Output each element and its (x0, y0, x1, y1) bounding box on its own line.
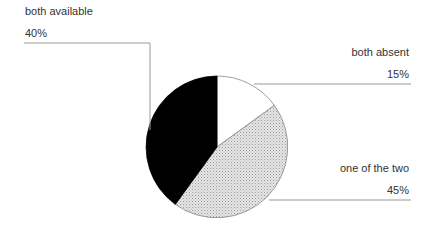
leader-line-both-available (24, 43, 150, 130)
pie-chart (0, 0, 431, 228)
label-both-absent: both absent (352, 46, 410, 58)
pct-one-of-the-two: 45% (387, 184, 409, 196)
pct-both-absent: 15% (387, 68, 409, 80)
label-one-of-the-two: one of the two (340, 162, 409, 174)
label-both-available: both available (25, 5, 93, 17)
pct-both-available: 40% (25, 27, 47, 39)
